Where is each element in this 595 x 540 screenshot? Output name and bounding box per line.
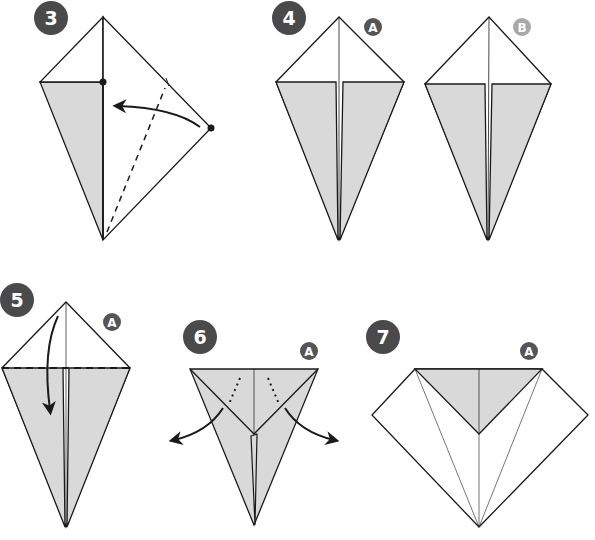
step-4-badge: 4: [272, 1, 306, 35]
step-5-badge: 5: [0, 283, 34, 317]
step-3-source-dot: [208, 125, 215, 132]
step-3-target-dot: [100, 79, 107, 86]
step-6-badge: 6: [183, 320, 217, 354]
step-4b-left-flap: [425, 84, 487, 240]
svg-text:5: 5: [10, 289, 23, 311]
svg-text:A: A: [107, 316, 117, 330]
step-4b: B: [425, 17, 551, 240]
view-a-badge: A: [364, 18, 382, 36]
step-3-back-flap: [40, 82, 103, 240]
step-3-badge: 3: [34, 1, 68, 35]
view-a-badge: A: [103, 313, 121, 331]
step-6: 6 A: [174, 320, 334, 525]
step-7-badge: 7: [366, 320, 400, 354]
step-3: 3: [34, 1, 215, 240]
view-a-badge: A: [300, 342, 318, 360]
step-5-right-flap: [67, 368, 130, 527]
step-7: 7 A: [366, 320, 588, 527]
step-5-left-flap: [2, 368, 65, 527]
origami-diagram: 3 4 A B: [0, 0, 595, 540]
svg-text:A: A: [304, 345, 314, 359]
svg-text:A: A: [524, 345, 534, 359]
step-4a: 4 A: [272, 1, 404, 240]
step-3-right-flap: [103, 17, 211, 240]
view-b-badge: B: [513, 18, 531, 36]
svg-text:3: 3: [44, 7, 57, 29]
svg-text:7: 7: [376, 326, 389, 348]
step-4b-right-flap: [489, 84, 551, 240]
step-5: 5 A: [0, 283, 130, 527]
svg-text:B: B: [517, 21, 526, 35]
svg-text:4: 4: [282, 7, 295, 29]
svg-text:A: A: [368, 21, 378, 35]
svg-text:6: 6: [193, 326, 206, 348]
view-a-badge: A: [520, 342, 538, 360]
step-4a-left-flap: [276, 82, 338, 240]
step-4a-right-flap: [340, 82, 404, 240]
